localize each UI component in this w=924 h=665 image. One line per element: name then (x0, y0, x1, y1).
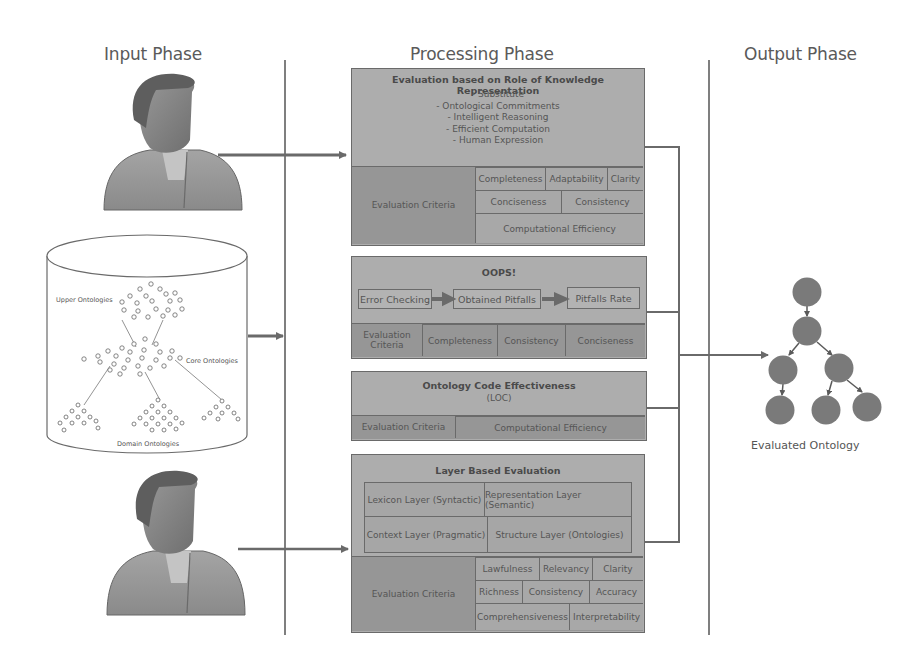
kr-role: - Intelligent Reasoning (352, 112, 644, 124)
kr-criterion: Clarity (607, 167, 643, 190)
code-effectiveness-criteria-label: Evaluation Criteria (352, 416, 455, 438)
oops-title: OOPS! (352, 267, 646, 278)
kr-role: - Substitute (352, 89, 644, 101)
kr-criterion: Consistency (561, 190, 643, 213)
kr-criterion: Computational Efficiency (475, 213, 643, 243)
knowledge-representation-box: Evaluation based on Role of Knowledge Re… (351, 68, 645, 246)
layer-criterion: Interpretability (569, 603, 643, 630)
kr-criteria-section: Evaluation Criteria Completeness Adaptab… (352, 166, 643, 244)
user-avatar-icon (104, 74, 242, 210)
kr-criterion: Conciseness (475, 190, 561, 213)
kr-role: - Efficient Computation (352, 124, 644, 136)
kr-criterion: Adaptability (545, 167, 607, 190)
layer-based-criteria-section: Evaluation Criteria Lawfulness Relevancy… (352, 556, 643, 631)
kr-role-list: - Substitute - Ontological Commitments -… (352, 89, 644, 147)
layer-criterion: Relevancy (539, 557, 592, 580)
ontology-tree-icon (766, 278, 882, 425)
oops-step-error-checking: Error Checking (358, 289, 432, 309)
oops-criterion: Conciseness (565, 324, 645, 356)
code-effectiveness-subtitle: (LOC) (352, 393, 646, 405)
kr-role: - Human Expression (352, 135, 644, 147)
core-ontologies-label: Core Ontologies (186, 357, 238, 365)
layer-criterion: Clarity (592, 557, 643, 580)
oops-step-pitfalls-rate: Pitfalls Rate (567, 287, 640, 309)
oops-flow-arrows (430, 291, 570, 307)
code-effectiveness-title: Ontology Code Effectiveness (352, 380, 646, 391)
layer-criterion: Richness (475, 580, 522, 603)
kr-role: - Ontological Commitments (352, 101, 644, 113)
user-avatar-icon (107, 471, 245, 615)
layer-context: Context Layer (Pragmatic) (364, 516, 488, 553)
oops-criterion: Completeness (422, 324, 497, 356)
layer-based-criteria-label: Evaluation Criteria (352, 557, 475, 630)
domain-ontologies-label: Domain Ontologies (117, 440, 179, 448)
code-effectiveness-box: Ontology Code Effectiveness (LOC) Evalua… (351, 371, 647, 441)
database-cylinder-icon (47, 235, 247, 453)
oops-criterion: Consistency (497, 324, 565, 356)
layer-representation: Representation Layer (Semantic) (484, 482, 632, 517)
evaluated-ontology-label: Evaluated Ontology (751, 439, 859, 452)
layer-based-box: Layer Based Evaluation Lexicon Layer (Sy… (351, 454, 645, 633)
layer-criterion: Lawfulness (475, 557, 539, 580)
oops-box: OOPS! Error Checking Obtained Pitfalls P… (351, 256, 647, 359)
layer-criterion: Accuracy (589, 580, 643, 603)
layer-criterion: Comprehensiveness (475, 603, 569, 630)
output-connector-lines (645, 147, 679, 542)
layer-lexicon: Lexicon Layer (Syntactic) (364, 482, 485, 517)
code-effectiveness-criteria-section: Evaluation Criteria Computational Effici… (352, 415, 645, 439)
upper-ontologies-label: Upper Ontologies (56, 296, 113, 304)
oops-criteria-section: Evaluation Criteria Completeness Consist… (352, 323, 645, 357)
oops-criteria-label: Evaluation Criteria (352, 324, 422, 356)
code-effectiveness-criterion: Computational Efficiency (455, 416, 645, 438)
layer-criterion: Consistency (522, 580, 589, 603)
kr-criterion: Completeness (475, 167, 545, 190)
layer-structure: Structure Layer (Ontologies) (487, 516, 632, 553)
kr-criteria-label: Evaluation Criteria (352, 167, 475, 243)
layer-based-title: Layer Based Evaluation (352, 465, 644, 476)
